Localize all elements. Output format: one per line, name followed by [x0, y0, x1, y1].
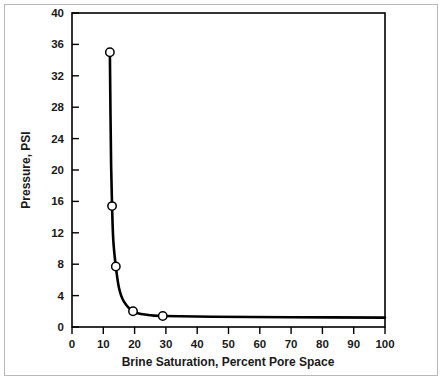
x-axis-ticks	[72, 327, 385, 334]
data-point-4	[159, 312, 167, 320]
y-tick-label-36: 36	[51, 38, 64, 50]
data-point-2	[112, 262, 120, 270]
x-tick-label-0: 0	[69, 338, 75, 350]
x-tick-label-70: 70	[285, 338, 298, 350]
plot-area: 0102030405060708090100 04812162024283236…	[0, 0, 443, 384]
x-axis-tick-labels: 0102030405060708090100	[69, 338, 395, 350]
plot-frame-rect	[72, 13, 385, 327]
x-tick-label-50: 50	[222, 338, 235, 350]
data-point-markers	[106, 48, 167, 320]
x-tick-label-60: 60	[253, 338, 266, 350]
x-axis-title: Brine Saturation, Percent Pore Space	[122, 355, 335, 369]
data-point-3	[129, 307, 137, 315]
y-tick-label-20: 20	[51, 164, 64, 176]
x-tick-label-30: 30	[160, 338, 173, 350]
data-series-line	[110, 52, 385, 317]
y-tick-label-24: 24	[51, 133, 64, 145]
axis-frame	[72, 13, 385, 327]
x-tick-label-20: 20	[128, 338, 141, 350]
x-tick-label-90: 90	[347, 338, 360, 350]
y-axis-title: Pressure, PSI	[19, 131, 33, 208]
data-point-1	[108, 202, 116, 210]
y-axis-ticks	[72, 13, 79, 327]
y-tick-label-12: 12	[51, 227, 64, 239]
figure-container: 0102030405060708090100 04812162024283236…	[0, 0, 443, 384]
x-tick-label-10: 10	[97, 338, 110, 350]
y-tick-label-8: 8	[58, 258, 65, 270]
y-tick-label-0: 0	[58, 321, 64, 333]
x-tick-label-40: 40	[191, 338, 204, 350]
x-tick-label-100: 100	[375, 338, 394, 350]
y-tick-label-16: 16	[51, 195, 64, 207]
capillary-pressure-chart: 0102030405060708090100 04812162024283236…	[0, 0, 443, 384]
y-tick-label-28: 28	[51, 101, 64, 113]
y-tick-label-4: 4	[58, 290, 65, 302]
y-tick-label-32: 32	[51, 70, 64, 82]
x-tick-label-80: 80	[316, 338, 329, 350]
y-axis-tick-labels: 0481216202428323640	[51, 7, 64, 333]
y-tick-label-40: 40	[51, 7, 64, 19]
data-point-0	[106, 48, 114, 56]
